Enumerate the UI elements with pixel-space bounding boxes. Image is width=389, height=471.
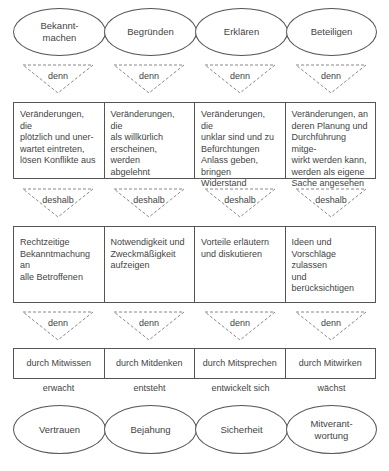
consequences-row: Veränderungen, die plötzlich und uner- w… [13,102,376,179]
connector-label: denn [204,71,276,81]
connector-label: denn [113,318,185,328]
oval-label: Bekannt- machen [40,20,78,44]
oval-label: Mitverant- wortung [310,418,352,442]
means-row: durch Mitwissen durch Mitdenken durch Mi… [13,348,376,379]
action-cell: Vorteile erläutern und diskutieren [195,227,286,302]
oval-label: Erklären [224,26,259,38]
connector-triangle: denn [22,310,94,342]
connector-label: denn [295,318,367,328]
connector-triangle: deshalb [113,187,185,219]
connector-triangle: denn [113,63,185,95]
consequence-cell: Veränderungen, die plötzlich und uner- w… [14,103,105,178]
oval-begruenden: Begründen [104,8,197,56]
oval-vertrauen: Vertrauen [13,405,106,454]
connector-triangle: denn [295,310,367,342]
oval-mitverantwortung: Mitverant- wortung [286,405,377,454]
actions-row: Rechtzeitige Bekanntmachung an alle Betr… [13,226,376,303]
connector-triangle: denn [113,310,185,342]
connector-triangle: denn [204,310,276,342]
verb-label: entwickelt sich [195,383,286,393]
means-cell: durch Mitwissen [14,349,105,378]
connector-label: denn [22,71,94,81]
oval-label: Beteiligen [311,26,353,38]
oval-bejahung: Bejahung [104,405,197,454]
consequence-cell: Veränderungen, die als willkürlich ersch… [105,103,196,178]
oval-sicherheit: Sicherheit [195,405,288,454]
connector-label: denn [295,71,367,81]
connector-label: deshalb [22,195,94,205]
consequence-cell: Veränderungen, die unklar sind und zu Be… [195,103,286,178]
oval-label: Bejahung [130,424,170,436]
verb-label: entsteht [104,383,195,393]
connector-label: deshalb [204,195,276,205]
oval-bekanntmachen: Bekannt- machen [13,8,106,56]
oval-label: Vertrauen [39,424,80,436]
connector-label: deshalb [113,195,185,205]
connector-label: denn [204,318,276,328]
connector-triangle: denn [204,63,276,95]
action-cell: Rechtzeitige Bekanntmachung an alle Betr… [14,227,105,302]
oval-label: Sicherheit [220,424,262,436]
oval-label: Begründen [127,26,173,38]
means-cell: durch Mitwirken [286,349,376,378]
connector-triangle: deshalb [22,187,94,219]
action-cell: Notwendigkeit und Zweckmäßigkeit aufzeig… [105,227,196,302]
consequence-cell: Veränderungen, an deren Planung und Durc… [286,103,376,178]
connector-label: denn [113,71,185,81]
verb-label: wächst [286,383,377,393]
connector-triangle: denn [295,63,367,95]
oval-beteiligen: Beteiligen [286,8,377,56]
connector-triangle: deshalb [204,187,276,219]
means-cell: durch Mitsprechen [195,349,286,378]
connector-label: deshalb [295,195,367,205]
verb-label: erwacht [13,383,104,393]
oval-erklaeren: Erklären [195,8,288,56]
connector-triangle: denn [22,63,94,95]
connector-label: denn [22,318,94,328]
action-cell: Ideen und Vorschläge zulassen und berück… [286,227,376,302]
means-cell: durch Mitdenken [105,349,196,378]
connector-triangle: deshalb [295,187,367,219]
